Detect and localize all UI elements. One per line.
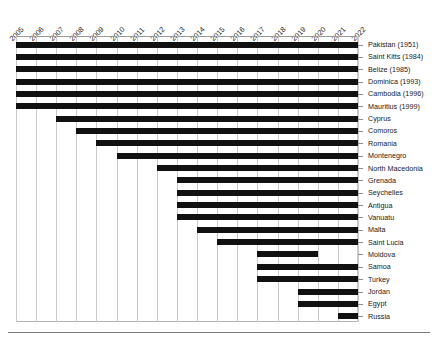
row-label-vanuatu: Vanuatu: [368, 214, 394, 222]
row-label-russia: Russia: [368, 313, 390, 321]
bottom-frame-rule: [8, 332, 430, 333]
bar-vanuatu[interactable]: [177, 214, 358, 220]
y-tickmark: [358, 230, 363, 231]
y-tickmark: [358, 254, 363, 255]
bar-saint-kitts-1984[interactable]: [16, 54, 358, 60]
bar-cyprus[interactable]: [56, 116, 358, 122]
row-label-seychelles: Seychelles: [368, 189, 403, 197]
bar-turkey[interactable]: [257, 276, 358, 282]
y-tickmark: [358, 106, 363, 107]
bar-jordan[interactable]: [298, 289, 358, 295]
row-label-egypt: Egypt: [368, 300, 386, 308]
bar-antigua[interactable]: [177, 202, 358, 208]
bar-egypt[interactable]: [298, 301, 358, 307]
y-tickmark: [358, 119, 363, 120]
y-tickmark: [358, 316, 363, 317]
bar-saint-lucia[interactable]: [217, 239, 358, 245]
bar-cambodia-1996[interactable]: [16, 91, 358, 97]
row-label-montenegro: Montenegro: [368, 152, 406, 160]
bar-grenada[interactable]: [177, 177, 358, 183]
bar-montenegro[interactable]: [117, 153, 358, 159]
row-label-romania: Romania: [368, 140, 397, 148]
plot-top-rule: [16, 36, 358, 37]
bar-comoros[interactable]: [76, 128, 358, 134]
x-axis-tick-labels: 2005200620072008200920102011201220132014…: [0, 6, 438, 36]
bar-dominica-1993[interactable]: [16, 79, 358, 85]
y-tickmark: [358, 69, 363, 70]
row-label-mauritius-1999: Mauritius (1999): [368, 103, 420, 111]
row-label-turkey: Turkey: [368, 276, 390, 284]
row-label-saint-lucia: Saint Lucia: [368, 239, 404, 247]
y-tickmark: [358, 131, 363, 132]
row-label-samoa: Samoa: [368, 263, 391, 271]
bar-samoa[interactable]: [257, 264, 358, 270]
plot-bottom-rule: [16, 321, 358, 322]
row-label-moldova: Moldova: [368, 251, 395, 259]
gantt-chart: 2005200620072008200920102011201220132014…: [0, 0, 438, 341]
bar-moldova[interactable]: [257, 251, 317, 257]
bar-seychelles[interactable]: [177, 190, 358, 196]
y-tickmark: [358, 45, 363, 46]
bar-romania[interactable]: [96, 140, 358, 146]
bar-mauritius-1999[interactable]: [16, 103, 358, 109]
y-tickmark: [358, 242, 363, 243]
y-tickmark: [358, 57, 363, 58]
row-label-dominica-1993: Dominica (1993): [368, 78, 421, 86]
row-label-antigua: Antigua: [368, 202, 392, 210]
y-tickmark: [358, 143, 363, 144]
bar-pakistan-1951[interactable]: [16, 42, 358, 48]
y-tickmark: [358, 267, 363, 268]
row-label-saint-kitts-1984: Saint Kitts (1984): [368, 53, 423, 61]
bar-north-macedonia[interactable]: [157, 165, 358, 171]
y-tickmark: [358, 205, 363, 206]
row-label-malta: Malta: [368, 226, 386, 234]
row-label-cyprus: Cyprus: [368, 115, 391, 123]
row-label-grenada: Grenada: [368, 177, 396, 185]
bar-russia[interactable]: [338, 313, 358, 319]
row-label-belize-1985: Belize (1985): [368, 66, 410, 74]
y-tickmark: [358, 94, 363, 95]
y-tickmark: [358, 292, 363, 293]
bar-malta[interactable]: [197, 227, 358, 233]
row-label-jordan: Jordan: [368, 288, 390, 296]
y-tickmark: [358, 180, 363, 181]
row-label-pakistan-1951: Pakistan (1951): [368, 41, 418, 49]
y-tickmark: [358, 304, 363, 305]
bar-belize-1985[interactable]: [16, 66, 358, 72]
y-tickmark: [358, 217, 363, 218]
row-label-north-macedonia: North Macedonia: [368, 165, 423, 173]
y-tickmark: [358, 193, 363, 194]
y-tickmark: [358, 279, 363, 280]
plot-area: [16, 36, 358, 322]
y-tickmark: [358, 168, 363, 169]
y-tickmark: [358, 156, 363, 157]
y-tickmark: [358, 82, 363, 83]
row-label-comoros: Comoros: [368, 127, 397, 135]
row-label-cambodia-1996: Cambodia (1996): [368, 90, 424, 98]
